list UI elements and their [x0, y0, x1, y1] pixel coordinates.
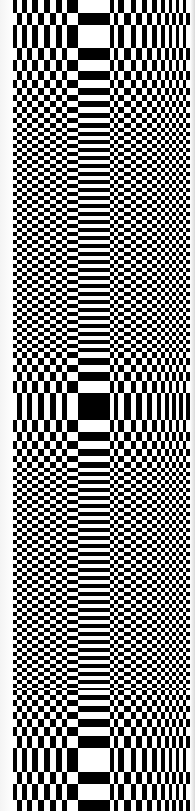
left-margin — [0, 0, 13, 811]
pattern-image — [0, 0, 195, 811]
checkerboard-pattern — [0, 0, 195, 811]
right-edge-shade — [190, 0, 195, 811]
